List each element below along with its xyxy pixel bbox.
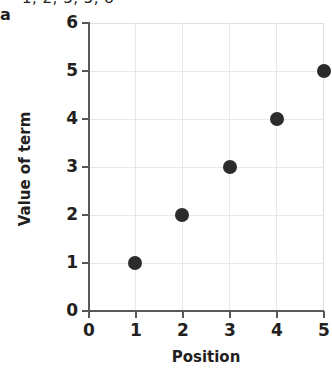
x-axis-tick [182, 311, 184, 318]
x-axis-title: Position [88, 348, 324, 366]
data-point[interactable] [317, 64, 331, 78]
gridline-horizontal [88, 119, 324, 120]
y-axis-tick-label: 5 [54, 62, 78, 79]
data-point[interactable] [175, 208, 189, 222]
y-axis-tick-label: 4 [54, 110, 78, 127]
data-point[interactable] [270, 112, 284, 126]
x-axis-tick [229, 311, 231, 318]
x-axis-tick [276, 311, 278, 318]
plot-frame-top-border [88, 23, 324, 24]
gridline-horizontal [88, 71, 324, 72]
x-axis-tick-label: 1 [124, 322, 148, 339]
gridline-horizontal [88, 263, 324, 264]
x-axis-tick [88, 311, 90, 318]
y-axis-tick-label: 2 [54, 206, 78, 223]
data-point[interactable] [223, 160, 237, 174]
gridline-horizontal [88, 215, 324, 216]
y-axis-tick [82, 214, 89, 216]
y-axis-tick-label: 1 [54, 254, 78, 271]
y-axis-tick [82, 118, 89, 120]
y-axis-tick [82, 70, 89, 72]
y-axis-tick-label: 6 [54, 14, 78, 31]
x-axis-line [87, 310, 324, 312]
plot-area [88, 23, 324, 311]
x-axis-tick-label: 0 [77, 322, 101, 339]
sequence-caption: 1, 2, 3, 5, 8 [22, 0, 114, 7]
x-axis-tick-label: 4 [265, 322, 289, 339]
gridline-horizontal [88, 167, 324, 168]
panel-letter: a [0, 7, 11, 23]
x-axis-tick [135, 311, 137, 318]
y-axis-tick [82, 22, 89, 24]
y-axis-tick-label: 3 [54, 158, 78, 175]
y-axis-tick [82, 262, 89, 264]
x-axis-tick-label: 3 [218, 322, 242, 339]
data-point[interactable] [128, 256, 142, 270]
x-axis-tick [323, 311, 325, 318]
x-axis-tick-label: 2 [171, 322, 195, 339]
x-axis-tick-label: 5 [312, 322, 332, 339]
y-axis-title: Value of term [16, 84, 34, 254]
y-axis-tick-label: 0 [54, 302, 78, 319]
y-axis-tick [82, 166, 89, 168]
